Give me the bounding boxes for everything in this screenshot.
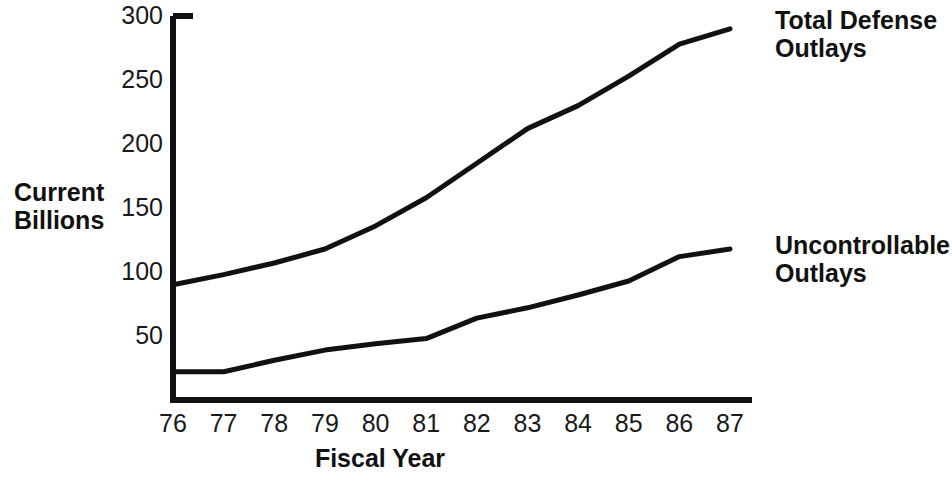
- y-axis-title: Current Billions: [14, 178, 104, 234]
- y-axis-title-line2: Billions: [14, 206, 104, 234]
- legend-label-uncontrollable-outlays: Uncontrollable Outlays: [775, 231, 950, 287]
- y-tick-label-50: 50: [135, 321, 163, 350]
- y-tick-label-300: 300: [121, 1, 163, 30]
- chart-axes: [170, 16, 752, 401]
- series-line-total-defense-outlays: [173, 29, 730, 285]
- y-tick-label-100: 100: [121, 257, 163, 286]
- legend-uncontrollable-line1: Uncontrollable: [775, 231, 950, 259]
- x-tick-label-87: 87: [700, 409, 760, 438]
- legend-label-total-defense-outlays: Total Defense Outlays: [775, 6, 937, 62]
- y-axis-title-line1: Current: [14, 178, 104, 206]
- x-axis-title: Fiscal Year: [0, 444, 760, 472]
- y-tick-label-250: 250: [121, 65, 163, 94]
- y-tick-label-150: 150: [121, 193, 163, 222]
- y-tick-label-200: 200: [121, 129, 163, 158]
- legend-uncontrollable-line2: Outlays: [775, 259, 950, 287]
- legend-total-line1: Total Defense: [775, 6, 937, 34]
- legend-total-line2: Outlays: [775, 34, 937, 62]
- chart-container: Current Billions Fiscal Year Total Defen…: [0, 0, 952, 485]
